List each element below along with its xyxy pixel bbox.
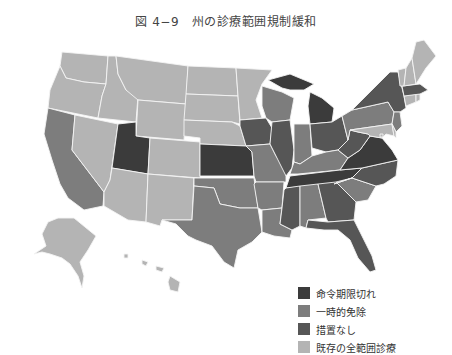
legend-label-none: 措置なし: [316, 322, 356, 337]
state-DC: [380, 134, 383, 137]
legend-swatch-temporary: [298, 305, 310, 317]
legend-swatch-existing: [298, 341, 310, 353]
state-FL: [306, 220, 376, 272]
state-KS: [200, 144, 254, 176]
legend-swatch-expired: [298, 287, 310, 299]
legend-label-expired: 命令期限切れ: [316, 286, 376, 301]
legend-item-expired: 命令期限切れ: [298, 284, 396, 302]
state-RI: [416, 94, 420, 102]
legend-item-temporary: 一時的免除: [298, 302, 396, 320]
state-NM: [146, 174, 194, 226]
state-IA: [240, 118, 272, 146]
legend-label-existing: 既存の全範囲診療: [316, 340, 396, 355]
state-HI: [124, 254, 180, 292]
legend-swatch-none: [298, 323, 310, 335]
state-WY: [136, 100, 186, 140]
state-AR: [254, 182, 284, 210]
state-SD: [184, 94, 240, 124]
legend-item-none: 措置なし: [298, 320, 396, 338]
state-AZ: [104, 168, 148, 222]
state-CO: [148, 138, 200, 178]
legend-item-existing: 既存の全範囲診療: [298, 338, 396, 355]
map-legend: 命令期限切れ 一時的免除 措置なし 既存の全範囲診療: [298, 284, 396, 355]
legend-label-temporary: 一時的免除: [316, 304, 366, 319]
state-ND: [186, 66, 238, 96]
state-WI: [262, 86, 294, 122]
state-AK: [34, 218, 96, 288]
state-ME: [412, 40, 436, 84]
